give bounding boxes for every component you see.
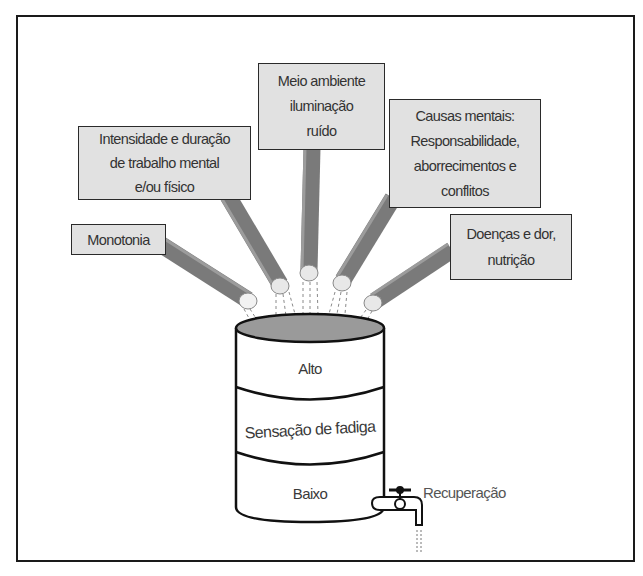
cause-box-monotonia: Monotonia	[71, 224, 166, 255]
cause-text: Causas mentais:	[390, 104, 540, 129]
level-high-label: Alto	[236, 360, 384, 377]
cause-text: Doenças e dor,	[451, 221, 571, 247]
cause-text: iluminação	[259, 94, 384, 119]
recovery-label: Recuperação	[423, 484, 506, 501]
cause-box-doencas: Doenças e dor, nutrição	[450, 214, 572, 280]
pipe-monotonia	[160, 238, 257, 309]
outlet-drip	[417, 530, 421, 552]
pipe-doencas	[364, 244, 452, 311]
cause-box-meio-ambiente: Meio ambiente iluminação ruído	[258, 63, 385, 150]
cause-text: Intensidade e duração	[79, 127, 250, 151]
cause-text: conflitos	[390, 179, 540, 204]
cause-text: Meio ambiente	[259, 69, 384, 94]
pipe-causas-mentais	[333, 195, 393, 291]
pipe-intensidade	[222, 196, 289, 294]
cause-text: e/ou físico	[79, 175, 250, 199]
cause-text: nutrição	[451, 247, 571, 273]
pipe-meio-ambiente	[300, 148, 318, 281]
cause-text: ruído	[259, 119, 384, 144]
cause-text: Responsabilidade,	[390, 129, 540, 154]
cause-text: Monotonia	[72, 225, 165, 255]
cause-box-intensidade: Intensidade e duração de trabalho mental…	[78, 126, 251, 200]
cause-box-causas-mentais: Causas mentais: Responsabilidade, aborre…	[389, 99, 541, 208]
level-low-label: Baixo	[236, 485, 384, 502]
cause-text: de trabalho mental	[79, 151, 250, 175]
cause-text: aborrecimentos e	[390, 154, 540, 179]
